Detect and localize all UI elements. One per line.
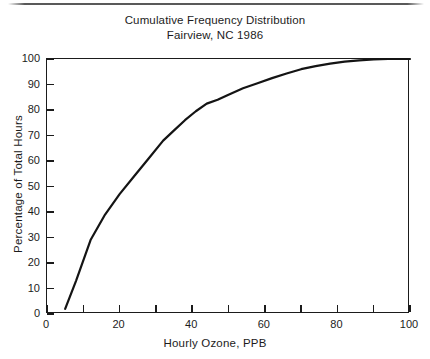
x-tick-100: [409, 305, 411, 312]
data-line-series: [47, 59, 410, 314]
chart-subtitle: Fairview, NC 1986: [0, 28, 430, 43]
x-tick-label-80: 80: [330, 318, 342, 330]
y-tick-100: [47, 58, 54, 60]
x-tick-label-60: 60: [258, 318, 270, 330]
y-tick-80: [47, 109, 54, 111]
x-axis-title: Hourly Ozone, PPB: [0, 337, 430, 349]
y-tick-50: [47, 186, 54, 188]
y-tick-label-100: 100: [14, 52, 40, 64]
x-tick-60: [264, 305, 266, 312]
y-tick-0: [47, 313, 54, 315]
x-tick-label-0: 0: [43, 318, 49, 330]
y-tick-label-90: 90: [14, 78, 40, 90]
y-axis-title: Percentage of Total Hours: [12, 94, 24, 274]
x-tick-20: [119, 305, 121, 312]
x-tick-label-100: 100: [400, 318, 418, 330]
y-tick-70: [47, 135, 54, 137]
x-tick-30: [155, 305, 157, 312]
y-tick-90: [47, 84, 54, 86]
x-tick-70: [300, 305, 302, 312]
y-tick-label-10: 10: [14, 282, 40, 294]
x-tick-90: [373, 305, 375, 312]
x-tick-80: [337, 305, 339, 312]
y-tick-40: [47, 211, 54, 213]
chart-figure: Cumulative Frequency Distribution Fairvi…: [0, 0, 430, 359]
y-tick-10: [47, 288, 54, 290]
y-tick-30: [47, 237, 54, 239]
x-tick-40: [191, 305, 193, 312]
chart-title-block: Cumulative Frequency Distribution Fairvi…: [0, 13, 430, 43]
plot-inner: [47, 59, 408, 312]
y-tick-label-0: 0: [14, 307, 40, 319]
y-tick-20: [47, 262, 54, 264]
x-tick-label-20: 20: [112, 318, 124, 330]
plot-area: [46, 58, 409, 313]
chart-title: Cumulative Frequency Distribution: [0, 13, 430, 28]
x-tick-0: [46, 305, 48, 312]
x-tick-10: [83, 305, 85, 312]
y-tick-60: [47, 160, 54, 162]
x-tick-50: [228, 305, 230, 312]
x-tick-label-40: 40: [185, 318, 197, 330]
